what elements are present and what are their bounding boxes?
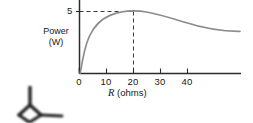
x-axis-tick-label-0: 0 (76, 77, 81, 87)
x-axis-tick-label-40: 40 (182, 77, 193, 87)
x-axis-ticks (80, 68, 188, 74)
power-curve (80, 11, 240, 73)
x-axis-tick-label-30: 30 (155, 77, 166, 87)
x-axis-tick-label-10: 10 (101, 77, 112, 87)
x-axis-label: R (ohms) (108, 88, 147, 99)
x-axis-tick-label-20: 20 (128, 77, 139, 87)
tripod-mark-icon (2, 86, 64, 123)
y-axis-label-line2: (W) (36, 37, 76, 48)
x-axis-label-unit: (ohms) (117, 87, 147, 98)
y-axis-label-line1: Power (43, 26, 69, 36)
y-axis-tick-label-5: 5 (67, 6, 72, 16)
y-axis-label: Power (W) (36, 26, 76, 48)
figure-container: 5 Power (W) 0 10 20 30 40 R (ohms) (0, 0, 253, 123)
